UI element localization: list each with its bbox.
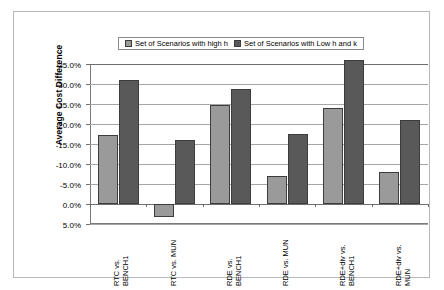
x-axis-labels-group: RTC vs. BENCH1RTC vs. MUNRDE vs. BENCH1R… [90, 226, 428, 288]
x-axis-tick [428, 204, 429, 207]
y-axis-tick-label: -5.0% [60, 181, 81, 190]
x-axis-label: RDE vs. BENCH1 [226, 226, 243, 286]
bar [344, 60, 364, 204]
chart-container: Set of Scenarios with high h Set of Scen… [0, 0, 444, 290]
plot-area: -35.0%-30.0%-25.0%-20.0%-15.0%-10.0%-5.0… [90, 64, 428, 224]
bar [154, 204, 174, 217]
bar [400, 120, 420, 204]
bar [98, 135, 118, 204]
bar [267, 176, 287, 204]
gridline [90, 224, 428, 225]
legend-entry-series-0: Set of Scenarios with high h [125, 39, 228, 48]
y-axis-tick-label: -20.0% [56, 121, 81, 130]
y-axis-tick-label: -15.0% [56, 141, 81, 150]
x-axis-label: RDE vs. MUN [282, 226, 291, 286]
legend-swatch-icon-series-1 [234, 40, 241, 47]
x-axis-label: RDE+div vs. BENCH1 [339, 226, 356, 286]
bar [175, 140, 195, 204]
legend-entry-series-1: Set of Scenarios with Low h and k [234, 39, 357, 48]
bar [379, 172, 399, 204]
bar [119, 80, 139, 204]
y-axis-tick-label: -25.0% [56, 101, 81, 110]
bars-group [90, 64, 428, 224]
legend-swatch-icon-series-0 [125, 40, 132, 47]
x-axis-label: RTC vs. MUN [170, 226, 179, 286]
bar [210, 105, 230, 204]
legend-label-series-1: Set of Scenarios with Low h and k [244, 39, 357, 48]
x-axis-label: RDE+div vs. MUN [395, 226, 412, 286]
y-axis-tick: 5.0% [86, 224, 90, 225]
y-axis-tick-label: 0.0% [63, 201, 81, 210]
bar [288, 134, 308, 204]
chart-frame: Set of Scenarios with high h Set of Scen… [13, 11, 430, 278]
x-axis-label: RTC vs. BENCH1 [113, 226, 130, 286]
bar [231, 89, 251, 204]
y-axis-tick-label: -35.0% [56, 61, 81, 70]
chart-legend: Set of Scenarios with high h Set of Scen… [118, 37, 364, 50]
y-axis-tick-label: 5.0% [63, 221, 81, 230]
y-axis-tick-label: -30.0% [56, 81, 81, 90]
y-axis-tick-label: -10.0% [56, 161, 81, 170]
bar [323, 108, 343, 204]
legend-label-series-0: Set of Scenarios with high h [135, 39, 228, 48]
